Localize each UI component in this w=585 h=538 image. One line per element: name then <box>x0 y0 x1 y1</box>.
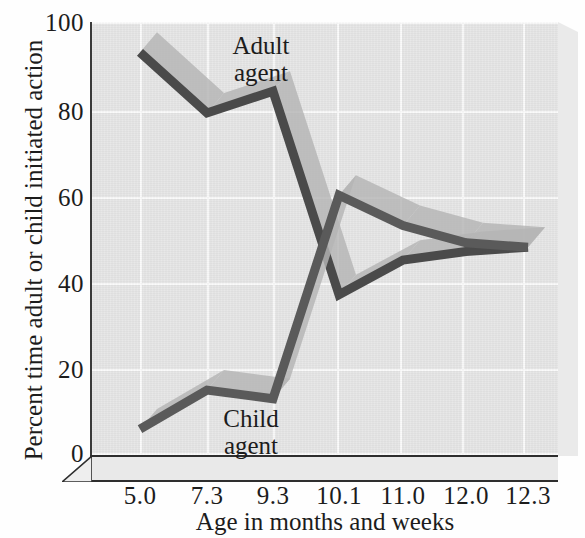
series-annotation-child: Child agent <box>196 405 306 459</box>
series-annotation-child-line1: Child <box>196 405 306 432</box>
series-annotation-adult-line1: Adult <box>206 32 316 59</box>
y-axis-line <box>90 22 92 456</box>
series-annotation-adult-line2: agent <box>206 59 316 86</box>
x-tick-label: 7.3 <box>191 482 224 510</box>
y-axis-title: Percent time adult or child initiated ac… <box>20 30 48 470</box>
y-tick-label: 20 <box>58 357 84 382</box>
x-tick-label: 5.0 <box>124 482 157 510</box>
series-annotation-child-line2: agent <box>196 432 306 459</box>
x-tick-label: 10.1 <box>316 482 362 510</box>
x-tick-label: 12.3 <box>505 482 551 510</box>
floor-slab <box>62 456 558 482</box>
y-tick-label: 80 <box>58 99 84 124</box>
y-tick-label: 60 <box>58 185 84 210</box>
x-axis-title: Age in months and weeks <box>92 508 558 536</box>
x-tick-label: 11.0 <box>381 482 426 510</box>
chart-figure: 100 80 60 40 20 0 5.0 7.3 9.3 10.1 11.0 … <box>0 0 585 538</box>
x-axis-line <box>90 455 558 457</box>
y-tick-label: 0 <box>71 441 84 466</box>
x-tick-label: 9.3 <box>257 482 290 510</box>
y-tick-label: 40 <box>58 271 84 296</box>
x-tick-label: 12.0 <box>443 482 489 510</box>
y-tick-label: 100 <box>45 10 84 35</box>
series-annotation-adult: Adult agent <box>206 32 316 86</box>
